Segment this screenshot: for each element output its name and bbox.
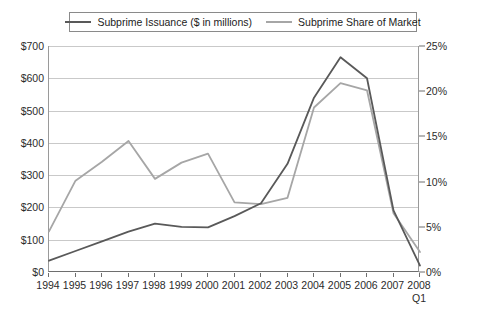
y-right-tick-label: 10% (426, 176, 447, 187)
x-tick (181, 273, 182, 277)
x-tick (207, 273, 208, 277)
x-tick (234, 273, 235, 277)
legend-label-share: Subprime Share of Market (298, 17, 421, 28)
x-axis-sublabel: Q1 (412, 292, 426, 304)
x-tick (75, 273, 76, 277)
y-right-tick-label: 25% (426, 41, 447, 52)
y-left-tick-label: $100 (21, 234, 44, 245)
x-tick (366, 273, 367, 277)
subprime-chart: Subprime Issuance ($ in millions) Subpri… (0, 0, 486, 322)
x-tick (419, 273, 420, 277)
y-right-tick-label: 15% (426, 131, 447, 142)
x-tick-label: 2005 (328, 279, 351, 291)
line-subprime-issuance (49, 57, 420, 265)
x-tick (340, 273, 341, 277)
x-tick (154, 273, 155, 277)
chart-legend: Subprime Issuance ($ in millions) Subpri… (69, 12, 417, 32)
plot-area (48, 46, 419, 272)
legend-entry-share: Subprime Share of Market (266, 17, 421, 28)
x-tick-label: 1995 (63, 279, 86, 291)
y-axis-left: $0$100$200$300$400$500$600$700 (0, 46, 44, 272)
line-subprime-share (49, 83, 420, 252)
x-tick-label: 2002 (248, 279, 271, 291)
x-tick-label: 2003 (275, 279, 298, 291)
y-left-tick-label: $0 (32, 267, 44, 278)
y-right-tick-label: 0% (426, 267, 441, 278)
x-tick (128, 273, 129, 277)
legend-line-swatch-share (266, 21, 292, 23)
x-tick (287, 273, 288, 277)
x-tick (313, 273, 314, 277)
legend-label-issuance: Subprime Issuance ($ in millions) (97, 17, 252, 28)
legend-entry-issuance: Subprime Issuance ($ in millions) (65, 17, 252, 28)
x-tick-label: 1996 (89, 279, 112, 291)
x-tick-label: 1994 (36, 279, 59, 291)
y-left-tick-label: $200 (21, 202, 44, 213)
x-tick (101, 273, 102, 277)
x-tick (48, 273, 49, 277)
x-tick-label: 2004 (301, 279, 324, 291)
y-left-tick-label: $300 (21, 170, 44, 181)
x-tick (260, 273, 261, 277)
x-tick-label: 1997 (116, 279, 139, 291)
x-tick-label: 2000 (195, 279, 218, 291)
y-left-tick-label: $400 (21, 137, 44, 148)
x-tick-label: 2006 (354, 279, 377, 291)
y-right-tick-label: 20% (426, 86, 447, 97)
y-right-tick-label: 5% (426, 221, 441, 232)
x-tick-label: 2007 (381, 279, 404, 291)
y-left-tick-label: $700 (21, 41, 44, 52)
legend-line-swatch-issuance (65, 21, 91, 23)
x-tick-label: 2008 (407, 279, 430, 291)
x-axis: 1994199519961997199819992000200120022003… (48, 273, 419, 293)
series-lines (49, 46, 420, 272)
x-tick (393, 273, 394, 277)
y-axis-right: 0%5%10%15%20%25% (426, 46, 482, 272)
x-tick-label: 1999 (169, 279, 192, 291)
y-left-tick-label: $600 (21, 73, 44, 84)
y-left-tick-label: $500 (21, 105, 44, 116)
x-tick-label: 1998 (142, 279, 165, 291)
x-tick-label: 2001 (222, 279, 245, 291)
